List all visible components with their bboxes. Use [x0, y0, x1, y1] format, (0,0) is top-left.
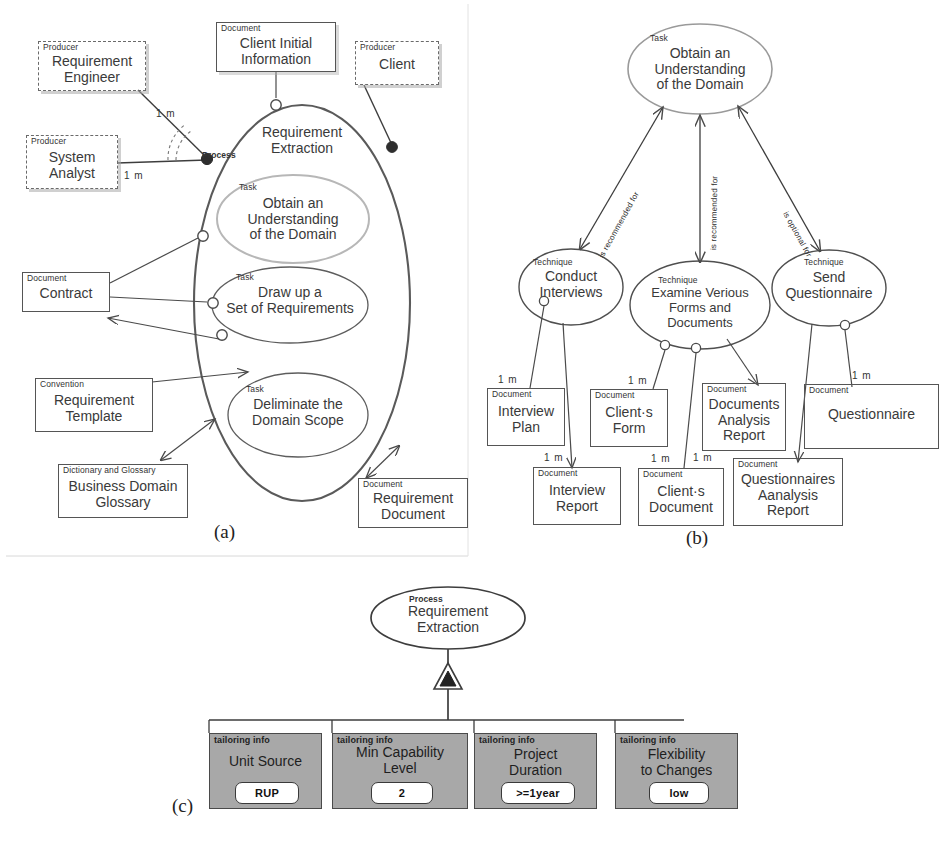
node-name: Questionnaires Aanalysis Report	[734, 472, 842, 519]
node-requirement-template[interactable]: Convention Requirement Template	[35, 378, 153, 432]
node-name: Flexibility to Changes	[616, 747, 737, 778]
tailoring-box-project-duration[interactable]: tailoring info Project Duration >=1year	[474, 733, 597, 809]
multiplicity-b-4: 1 m	[651, 453, 671, 464]
multiplicity-system-analyst: 1 m	[124, 170, 144, 181]
node-requirement-extraction-c[interactable]: Process Requirement Extraction	[371, 587, 525, 649]
node-requirement-engineer[interactable]: Producer Requirement Engineer	[38, 41, 146, 91]
node-name: Client·s Document	[639, 484, 723, 515]
stereotype-label: Dictionary and Glossary	[63, 466, 156, 475]
node-clients-form[interactable]: Document Client·s Form	[590, 389, 668, 447]
multiplicity-requirement-engineer: 1 m	[156, 108, 176, 119]
stereotype-label: Producer	[31, 137, 66, 146]
node-name: Interview Report	[534, 483, 620, 514]
node-name: Deliminate the Domain Scope	[228, 397, 368, 428]
node-task-deliminate-domain-scope[interactable]: Task Deliminate the Domain Scope	[228, 373, 368, 457]
node-questionnaires-analysis-report[interactable]: Document Questionnaires Aanalysis Report	[733, 458, 843, 526]
stereotype-label: Document	[707, 385, 747, 394]
panel-letter-b: (b)	[686, 527, 708, 549]
node-clients-document[interactable]: Document Client·s Document	[638, 468, 724, 526]
node-name: Questionnaire	[805, 407, 938, 423]
stereotype-label: Document	[363, 480, 403, 489]
node-client[interactable]: Producer Client	[355, 41, 439, 85]
node-name: Client Initial Information	[217, 36, 335, 67]
stereotype-label: tailoring info	[214, 736, 270, 745]
node-name: Requirement Template	[36, 393, 152, 424]
stereotype-label: Task	[246, 385, 264, 394]
node-task-obtain-understanding-a[interactable]: Task Obtain an Understanding of the Doma…	[217, 175, 369, 263]
node-technique-examine-various-forms[interactable]: Technique Examine Verious Forms and Docu…	[630, 261, 770, 349]
node-name: Project Duration	[475, 747, 596, 778]
node-documents-analysis-report[interactable]: Document Documents Analysis Report	[702, 383, 786, 451]
stereotype-label: Task	[239, 183, 257, 192]
node-name: Documents Analysis Report	[703, 397, 785, 444]
stereotype-label: Task	[236, 273, 254, 282]
node-name: Draw up a Set of Requirements	[212, 285, 368, 316]
stereotype-label: Document	[595, 391, 635, 400]
node-name: Requirement Extraction	[371, 604, 525, 635]
stereotype-label: Technique	[804, 258, 844, 267]
node-questionnaire[interactable]: Document Questionnaire	[804, 384, 939, 449]
node-name: Conduct Interviews	[519, 269, 623, 300]
panel-letter-a: (a)	[214, 521, 235, 543]
stereotype-label: Technique	[658, 276, 698, 285]
tailoring-value-unit-source[interactable]: RUP	[235, 782, 299, 804]
multiplicity-b-2: 1 m	[544, 452, 564, 463]
stereotype-label: Document	[643, 470, 683, 479]
stereotype-label: Document	[809, 386, 849, 395]
node-name: Obtain an Understanding of the Domain	[217, 196, 369, 243]
multiplicity-b-1: 1 m	[498, 374, 518, 385]
tailoring-value-project-duration[interactable]: >=1year	[501, 782, 575, 804]
node-name: Requirement Engineer	[39, 54, 145, 85]
edge-label-recommended-2: is recommended for	[709, 176, 719, 250]
panel-letter-c: (c)	[172, 795, 193, 817]
stereotype-label: Document	[492, 390, 532, 399]
node-technique-conduct-interviews[interactable]: Technique Conduct Interviews	[519, 249, 623, 325]
node-name: Unit Source	[210, 754, 321, 770]
stereotype-label: Document	[538, 469, 578, 478]
node-requirement-document[interactable]: Document Requirement Document	[358, 478, 468, 528]
node-name: Client·s Form	[591, 405, 667, 436]
node-name: Examine Verious Forms and Documents	[630, 285, 770, 330]
node-client-initial-information[interactable]: Document Client Initial Information	[216, 22, 336, 72]
node-name: Requirement Extraction	[194, 125, 410, 156]
node-name: Business Domain Glossary	[59, 479, 187, 510]
node-name: Min Capability Level	[333, 745, 467, 776]
stereotype-label: Producer	[43, 43, 78, 52]
stereotype-label: Producer	[360, 43, 395, 52]
stereotype-label: Document	[27, 274, 67, 283]
stereotype-label: Task	[650, 34, 668, 43]
multiplicity-b-5: 1 m	[693, 452, 713, 463]
node-name: Client	[356, 57, 438, 73]
node-business-domain-glossary[interactable]: Dictionary and Glossary Business Domain …	[58, 464, 188, 518]
multiplicity-b-6: 1 m	[852, 370, 872, 381]
tailoring-box-min-capability-level[interactable]: tailoring info Min Capability Level 2	[332, 733, 468, 809]
stereotype-label: Document	[221, 24, 261, 33]
node-name: Interview Plan	[488, 404, 564, 435]
stereotype-label: Document	[738, 460, 778, 469]
node-name: Send Questionnaire	[772, 270, 886, 301]
tailoring-value-min-capability-level[interactable]: 2	[371, 782, 433, 804]
node-name: Contract	[23, 286, 109, 302]
node-system-analyst[interactable]: Producer System Analyst	[26, 135, 118, 189]
node-interview-plan[interactable]: Document Interview Plan	[487, 388, 565, 446]
node-contract[interactable]: Document Contract	[22, 272, 110, 312]
tailoring-value-flexibility-to-changes[interactable]: low	[649, 782, 709, 804]
multiplicity-b-3: 1 m	[628, 375, 648, 386]
stereotype-label: tailoring info	[620, 736, 676, 745]
node-name: Requirement Document	[359, 491, 467, 522]
node-technique-send-questionnaire[interactable]: Technique Send Questionnaire	[772, 250, 886, 326]
node-interview-report[interactable]: Document Interview Report	[533, 467, 621, 525]
stereotype-label: tailoring info	[479, 736, 535, 745]
node-name: System Analyst	[27, 150, 117, 181]
node-task-obtain-understanding-b[interactable]: Task Obtain an Understanding of the Doma…	[628, 24, 772, 114]
tailoring-box-unit-source[interactable]: tailoring info Unit Source RUP	[209, 733, 322, 809]
tailoring-box-flexibility-to-changes[interactable]: tailoring info Flexibility to Changes lo…	[615, 733, 738, 809]
stereotype-label: Convention	[40, 380, 84, 389]
node-task-draw-up-requirements[interactable]: Task Draw up a Set of Requirements	[212, 267, 368, 343]
node-name: Obtain an Understanding of the Domain	[628, 46, 772, 93]
stereotype-label: Technique	[533, 258, 573, 267]
